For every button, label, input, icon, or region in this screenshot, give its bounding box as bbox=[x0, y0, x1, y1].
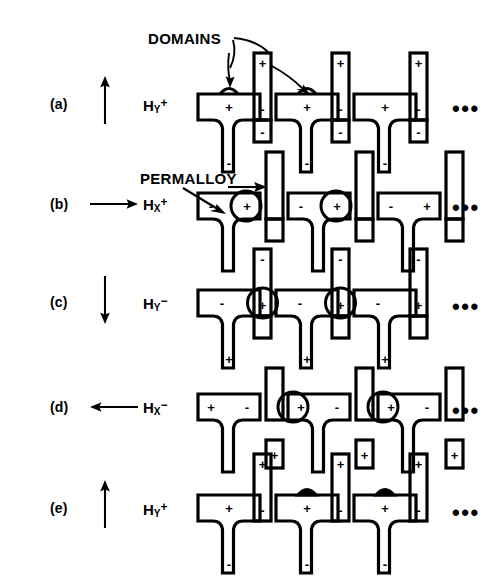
bar-e-0-bottom-sign: - bbox=[260, 503, 264, 518]
bar-e-0-top-sign: + bbox=[259, 457, 267, 472]
bar-c-0-bottom-sign: + bbox=[259, 298, 267, 313]
row-d-elements: + - + - + - bbox=[198, 316, 463, 472]
bar-a-1: + - bbox=[332, 53, 349, 120]
bar-e-1-bottom-sign: - bbox=[338, 503, 342, 518]
permalloy-pattern-svg: + - + - + - + - + bbox=[0, 0, 503, 585]
row-e-elements: + + + + - + - + - + bbox=[198, 440, 463, 573]
tbar-c-0-top-sign: - bbox=[220, 296, 224, 311]
bar-b-1 bbox=[356, 152, 373, 219]
bar-stub-e-1-sign: + bbox=[361, 448, 369, 463]
tbar-b-1-left-sign: - bbox=[299, 199, 303, 214]
tbar-c-0: - + bbox=[198, 290, 260, 368]
tbar-e-0-top-sign: + bbox=[225, 501, 233, 516]
bar-c-0: - + bbox=[248, 249, 278, 318]
tbar-e-1-stem-sign: - bbox=[305, 557, 309, 572]
tbar-b-2-left-sign: - bbox=[389, 199, 393, 214]
bar-c-2-top-sign: - bbox=[416, 252, 420, 267]
bar-e-1-top-sign: + bbox=[337, 457, 345, 472]
bar-e-1: + - bbox=[332, 454, 349, 521]
tbar-e-0-stem-sign: - bbox=[227, 557, 231, 572]
bar-stub-d-2 bbox=[410, 316, 427, 338]
callout-domains: DOMAINS bbox=[148, 30, 310, 95]
tbar-d-0-left-sign: + bbox=[207, 400, 215, 415]
tbar-a-1-stem-sign: - bbox=[305, 156, 309, 171]
tbar-a-1: + - bbox=[276, 89, 338, 173]
bar-a-1-top-sign: + bbox=[337, 56, 345, 71]
tbar-d-1-left-sign: + bbox=[297, 400, 305, 415]
tbar-c-1-top-sign: - bbox=[298, 296, 302, 311]
domain-dome-e-0 bbox=[298, 490, 316, 496]
tbar-c-1: - + bbox=[276, 290, 338, 368]
bar-e-2-bottom-sign: - bbox=[416, 503, 420, 518]
tbar-c-2-top-sign: - bbox=[376, 296, 380, 311]
tbar-e-0: + - bbox=[198, 495, 260, 573]
bar-stub-e-2-sign: + bbox=[451, 448, 459, 463]
bar-stub-b-2-sign: - bbox=[416, 125, 420, 140]
tbar-c-1-stem-sign: + bbox=[303, 352, 311, 367]
tbar-e-1: + - bbox=[276, 490, 338, 574]
bar-c-0-top-sign: - bbox=[260, 252, 264, 267]
tbar-a-1-top-sign: + bbox=[303, 100, 311, 115]
tbar-a-0-top-sign: + bbox=[225, 100, 233, 115]
bar-a-2-top-sign: + bbox=[415, 56, 423, 71]
tbar-c-2: - + bbox=[354, 290, 416, 368]
tbar-d-2: + - bbox=[368, 392, 440, 472]
bar-a-1-bottom-sign: - bbox=[338, 102, 342, 117]
tbar-c-2-stem-sign: + bbox=[381, 352, 389, 367]
tbar-a-2-top-sign: + bbox=[381, 100, 389, 115]
tbar-d-2-left-sign: + bbox=[387, 400, 395, 415]
tbar-a-2-stem-sign: - bbox=[383, 156, 387, 171]
tbar-a-0-stem-sign: - bbox=[227, 156, 231, 171]
bar-stub-b-1-sign: - bbox=[338, 125, 342, 140]
bar-d-2 bbox=[446, 368, 463, 420]
bar-stub-c-2 bbox=[446, 219, 463, 241]
bar-a-2-bottom-sign: - bbox=[416, 102, 420, 117]
tbar-a-2: + - bbox=[354, 94, 416, 172]
bar-e-2-top-sign: + bbox=[415, 457, 423, 472]
tbar-d-0-right-sign: - bbox=[245, 400, 249, 415]
callout-domains-label: DOMAINS bbox=[148, 30, 221, 47]
bar-b-0 bbox=[266, 152, 283, 219]
callout-permalloy-label: PERMALLOY bbox=[140, 170, 237, 187]
domain-dome-e-1 bbox=[376, 490, 394, 496]
bar-a-2: + - bbox=[410, 53, 427, 120]
tbar-e-2-stem-sign: - bbox=[383, 557, 387, 572]
bar-c-2-bottom-sign: + bbox=[415, 298, 423, 313]
bar-stub-c-1 bbox=[356, 219, 373, 241]
tbar-d-2-right-sign: - bbox=[425, 400, 429, 415]
bar-a-0-bottom-sign: - bbox=[260, 102, 264, 117]
bar-e-0: + - bbox=[254, 454, 271, 521]
tbar-b-2-right-sign: + bbox=[423, 199, 431, 214]
row-c-elements: - + - + - + - + - bbox=[198, 219, 463, 368]
tbar-e-1-top-sign: + bbox=[303, 501, 311, 516]
tbar-b-1-right-sign: + bbox=[333, 199, 341, 214]
bar-c-1-bottom-sign: + bbox=[337, 298, 345, 313]
tbar-c-0-stem-sign: + bbox=[225, 352, 233, 367]
bar-a-0: + - bbox=[254, 53, 271, 120]
tbar-b-0-right-sign: + bbox=[243, 199, 251, 214]
tbar-e-2-top-sign: + bbox=[381, 501, 389, 516]
bar-c-1: - + bbox=[326, 249, 356, 318]
bar-a-0-top-sign: + bbox=[259, 56, 267, 71]
bar-stub-b-0-sign: - bbox=[260, 125, 264, 140]
tbar-a-0: + - bbox=[198, 89, 260, 173]
figure-canvas: (a) HY+ (b) HX+ (c) HY− (d) bbox=[0, 0, 503, 585]
bar-stub-c-0 bbox=[266, 219, 283, 241]
tbar-e-2: + - bbox=[354, 490, 416, 574]
row-a-elements: + - + - + - + - + bbox=[198, 53, 427, 172]
bar-b-2 bbox=[446, 152, 463, 219]
tbar-d-1-right-sign: - bbox=[335, 400, 339, 415]
tbar-d-0: + - bbox=[198, 394, 260, 472]
bar-c-1-top-sign: - bbox=[338, 252, 342, 267]
